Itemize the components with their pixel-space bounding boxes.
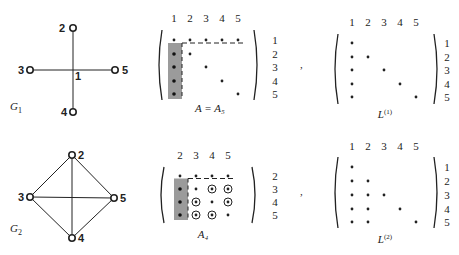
graph-g1: 12345G1: [10, 22, 128, 118]
row-label: 5: [444, 91, 450, 103]
nonzero-entry: [178, 213, 182, 217]
matrix-caption: L(2): [377, 233, 393, 245]
nonzero-entry: [383, 194, 386, 197]
right-paren: [252, 167, 255, 223]
graph-edge: [72, 155, 114, 198]
nonzero-entry: [211, 201, 214, 204]
matrix-l1: 1234512345L(1): [335, 16, 450, 120]
row-label: 5: [272, 209, 278, 221]
row-label: 5: [444, 216, 450, 228]
nonzero-entry: [189, 39, 192, 42]
graph-name: G2: [10, 222, 22, 237]
nonzero-entry: [178, 187, 182, 191]
row-label: 1: [272, 34, 278, 46]
matrix-caption: L(1): [377, 108, 393, 120]
shaded-column: [168, 43, 182, 99]
column-label: 4: [219, 12, 225, 24]
row-label: 4: [444, 78, 450, 90]
left-paren: [335, 157, 338, 228]
nonzero-entry: [351, 56, 354, 59]
nonzero-entry: [173, 39, 176, 42]
separator-comma: ,: [300, 58, 303, 70]
graph-node-label: 5: [120, 192, 126, 204]
nonzero-entry: [351, 180, 354, 183]
nonzero-entry: [351, 96, 354, 99]
nonzero-entry: [205, 66, 208, 69]
graph-node-label: 3: [18, 64, 24, 76]
column-label: 5: [235, 12, 241, 24]
nonzero-entry: [178, 200, 182, 204]
nonzero-entry: [195, 175, 198, 178]
row-label: 1: [444, 161, 450, 173]
column-label: 4: [397, 16, 403, 28]
nonzero-entry: [195, 214, 198, 217]
nonzero-entry: [172, 52, 176, 56]
row-label: 2: [444, 175, 450, 187]
matrix-caption: A = A₅: [194, 102, 225, 114]
right-paren: [434, 157, 437, 228]
nonzero-entry: [195, 201, 198, 204]
nonzero-entry: [351, 69, 354, 72]
right-paren: [254, 30, 257, 100]
column-label: 2: [177, 149, 183, 161]
row-label: 5: [272, 88, 278, 100]
graph-node-icon: [27, 194, 33, 200]
column-label: 2: [365, 16, 371, 28]
nonzero-entry: [351, 42, 354, 45]
nonzero-entry: [227, 214, 230, 217]
row-label: 1: [444, 37, 450, 49]
graph-edge: [30, 155, 72, 197]
nonzero-entry: [179, 175, 182, 178]
row-label: 2: [272, 48, 278, 60]
graph-node-label: 5: [122, 64, 128, 76]
graph-name: G1: [10, 100, 22, 115]
nonzero-entry: [351, 221, 354, 224]
column-label: 5: [225, 149, 231, 161]
graph-node-label: 2: [78, 149, 84, 161]
nonzero-entry: [205, 39, 208, 42]
nonzero-entry: [195, 188, 198, 191]
matrices: 1234512345A = A₅1234512345L(1)23452345A₄…: [159, 12, 450, 245]
nonzero-entry: [172, 79, 176, 83]
nonzero-entry: [415, 221, 418, 224]
row-label: 2: [444, 51, 450, 63]
column-label: 5: [413, 16, 419, 28]
graph-node-label: 2: [59, 22, 65, 34]
graphs: 12345G12345G2: [10, 22, 128, 244]
nonzero-entry: [367, 180, 370, 183]
row-label: 4: [272, 75, 278, 87]
nonzero-entry: [351, 83, 354, 86]
nonzero-entry: [237, 93, 240, 96]
graph-node-label: 3: [18, 191, 24, 203]
nonzero-entry: [189, 53, 192, 56]
column-label: 3: [203, 12, 209, 24]
graph-node-label: 1: [75, 70, 81, 82]
right-paren: [434, 34, 437, 104]
separator-comma: ,: [300, 185, 303, 197]
left-paren: [161, 167, 164, 223]
nonzero-entry: [211, 188, 214, 191]
nonzero-entry: [383, 69, 386, 72]
nonzero-entry: [367, 56, 370, 59]
nonzero-entry: [367, 194, 370, 197]
column-label: 3: [381, 16, 387, 28]
column-label: 1: [349, 140, 355, 152]
graph-node-label: 4: [78, 232, 85, 244]
graph-g2: 2345G2: [10, 149, 126, 244]
left-paren: [335, 34, 338, 104]
nonzero-entry: [367, 208, 370, 211]
graph-node-icon: [112, 67, 118, 73]
matrix-l2: 1234512345L(2): [335, 140, 450, 245]
nonzero-entry: [227, 175, 230, 178]
row-label: 3: [272, 183, 278, 195]
matrix-caption: A₄: [197, 228, 209, 240]
column-label: 4: [209, 149, 215, 161]
nonzero-entry: [367, 221, 370, 224]
graph-node-icon: [69, 235, 75, 241]
column-label: 4: [397, 140, 403, 152]
graph-edge: [30, 197, 72, 238]
nonzero-entry: [399, 83, 402, 86]
column-label: 2: [187, 12, 193, 24]
nonzero-entry: [399, 208, 402, 211]
nonzero-entry: [211, 175, 214, 178]
